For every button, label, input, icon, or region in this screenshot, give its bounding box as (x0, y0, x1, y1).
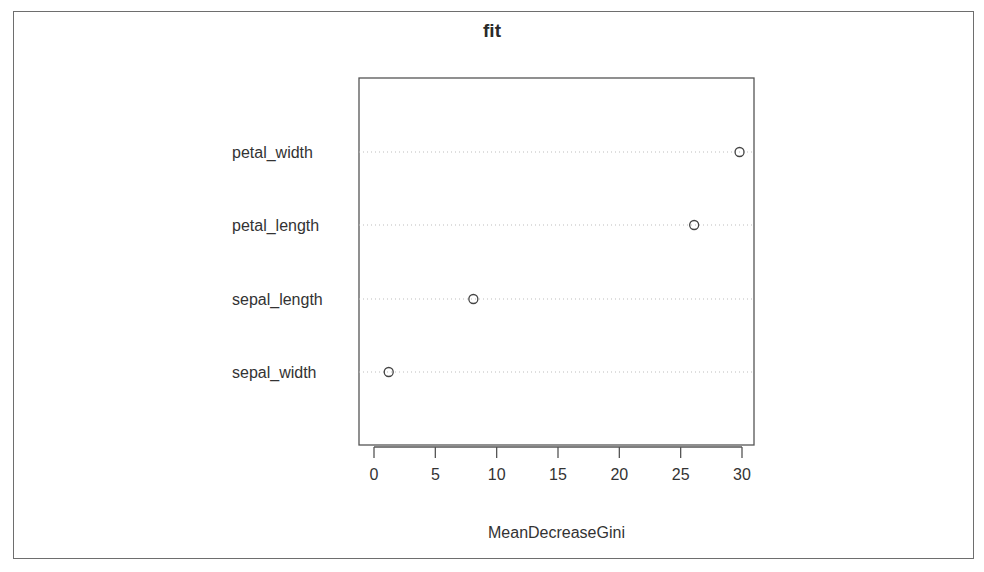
plot-area-border (359, 78, 754, 445)
category-label: sepal_length (232, 291, 323, 309)
data-point (469, 295, 478, 304)
x-tick-label: 25 (672, 466, 690, 483)
x-tick-label: 0 (370, 466, 379, 483)
x-axis-label: MeanDecreaseGini (359, 524, 754, 542)
x-tick-label: 20 (610, 466, 628, 483)
category-label: petal_length (232, 217, 319, 235)
category-label: sepal_width (232, 364, 317, 382)
x-tick-label: 15 (549, 466, 567, 483)
category-label: petal_width (232, 144, 313, 162)
x-tick-label: 30 (733, 466, 751, 483)
dotchart-plot: petal_widthpetal_lengthsepal_lengthsepal… (0, 0, 984, 572)
x-tick-label: 5 (431, 466, 440, 483)
x-tick-label: 10 (488, 466, 506, 483)
